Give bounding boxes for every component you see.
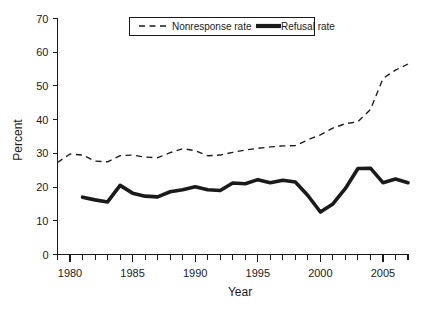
series-line-refusal-rate xyxy=(83,168,408,212)
x-axis-title: Year xyxy=(228,285,252,299)
x-tick-label: 1985 xyxy=(120,267,144,279)
x-tick-label: 2005 xyxy=(371,267,395,279)
series-lines xyxy=(58,64,409,212)
x-tick-label: 1990 xyxy=(183,267,207,279)
y-axis-title: Percent xyxy=(11,119,25,161)
x-tick-label: 2000 xyxy=(308,267,332,279)
x-axis: 198019851990199520002005 xyxy=(58,255,410,279)
chart-legend: Nonresponse rateRefusal rate xyxy=(129,17,335,35)
x-tick-label: 1980 xyxy=(58,267,82,279)
series-line-nonresponse-rate xyxy=(58,64,409,162)
y-tick-label: 10 xyxy=(36,215,48,227)
chart-container: 010203040506070 198019851990199520002005… xyxy=(0,0,423,310)
y-tick-label: 30 xyxy=(36,147,48,159)
legend-label-refusal: Refusal rate xyxy=(281,21,335,32)
line-chart: 010203040506070 198019851990199520002005… xyxy=(0,0,423,310)
y-tick-label: 50 xyxy=(36,80,48,92)
y-tick-label: 60 xyxy=(36,46,48,58)
y-tick-label: 20 xyxy=(36,181,48,193)
y-axis: 010203040506070 xyxy=(36,13,57,261)
y-tick-label: 70 xyxy=(36,13,48,25)
x-tick-label: 1995 xyxy=(246,267,270,279)
y-tick-label: 40 xyxy=(36,114,48,126)
y-tick-label: 0 xyxy=(42,249,48,261)
legend-label-nonresponse: Nonresponse rate xyxy=(172,21,252,32)
